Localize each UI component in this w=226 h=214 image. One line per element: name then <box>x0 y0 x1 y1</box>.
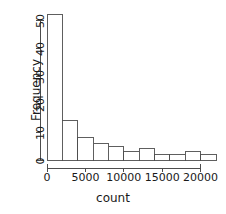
y-tick-label: 10 <box>35 126 46 140</box>
histogram-screenshot: 05000100001500020000 01020304050 count F… <box>0 0 226 214</box>
histogram-bar <box>155 154 170 160</box>
histogram-bar <box>47 14 62 160</box>
histogram-bar <box>93 143 108 160</box>
y-tick-label: 40 <box>35 42 46 56</box>
y-tick-label: 50 <box>35 14 46 28</box>
histogram-bar <box>78 138 93 160</box>
histogram-bar <box>124 152 139 160</box>
x-tick-label: 20000 <box>183 172 218 183</box>
x-tick-label: 15000 <box>145 172 180 183</box>
histogram-bar <box>62 121 77 160</box>
histogram-bar <box>139 149 154 160</box>
x-tick-label: 10000 <box>106 172 141 183</box>
y-tick-label-holder: 40 <box>24 48 40 49</box>
y-tick-label-holder: 50 <box>24 20 40 21</box>
x-axis-title: count <box>0 192 226 204</box>
x-tick-label: 5000 <box>71 172 99 183</box>
y-axis-title: Frequency <box>30 59 42 121</box>
y-tick-label-holder: 10 <box>24 132 40 133</box>
y-tick-label-holder: 0 <box>24 160 40 161</box>
histogram-bar <box>185 152 200 160</box>
x-tick-label: 0 <box>44 172 51 183</box>
histogram-bar <box>108 146 123 160</box>
histogram-bar <box>170 154 185 160</box>
bars-group <box>47 14 216 160</box>
y-tick-label: 0 <box>35 157 46 164</box>
histogram-bar <box>201 154 216 160</box>
